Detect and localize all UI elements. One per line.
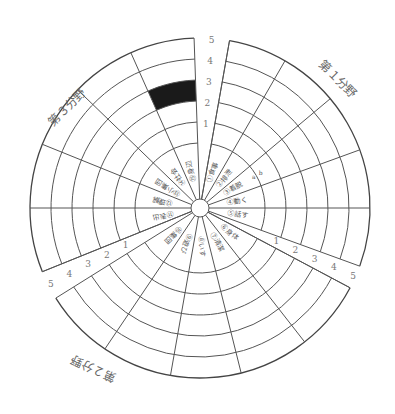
sector-spoke-6: [206, 215, 305, 342]
scale-label-2-5: 5: [48, 279, 54, 289]
scale-label-1-2: 2: [293, 245, 299, 255]
scale-label-0-5: 5: [209, 35, 215, 45]
sub-mark-b: b: [259, 169, 263, 176]
field-title-2: 第２分野: [69, 352, 118, 385]
item-label-8: ⑧いす: [197, 235, 206, 256]
scale-label-1-1: 1: [273, 236, 279, 246]
scale-label-2-2: 2: [104, 250, 110, 260]
sub-mark-a: a: [252, 173, 256, 180]
item-label-6: ⑥身体: [219, 222, 241, 242]
sector-spoke-1: [205, 61, 286, 200]
scale-label-2-4: 4: [67, 269, 73, 279]
item-label-15: ⑮身辺: [184, 160, 198, 182]
highlighted-cell: [148, 80, 196, 110]
field-2-ring-4: [74, 278, 332, 357]
scale-label-2-3: 3: [85, 259, 91, 269]
center-hub: [191, 199, 209, 217]
scale-label-1-5: 5: [350, 271, 356, 281]
field-2-ring-3: [91, 268, 313, 336]
scale-label-0-1: 1: [203, 119, 209, 129]
item-label-7: ⑦清潔: [209, 230, 226, 253]
sector-spoke-3: [208, 150, 359, 205]
sector-spoke-14: [131, 53, 196, 200]
field-title-1: 第１分野: [316, 57, 360, 101]
chart-svg: 123451234512345第１分野第２分野第３分野①食事②排泄③着脱④動く⑤…: [0, 0, 395, 414]
scale-label-0-4: 4: [207, 56, 213, 66]
radial-assessment-chart: 123451234512345第１分野第２分野第３分野①食事②排泄③着脱④動く⑤…: [0, 0, 395, 414]
sector-spoke-12: [42, 144, 191, 204]
item-label-10: ⑩集団: [162, 224, 183, 245]
sector-spoke-2: [207, 99, 330, 202]
item-label-12: ⑫理解: [151, 195, 173, 208]
scale-label-0-2: 2: [204, 98, 210, 108]
scale-label-1-3: 3: [312, 254, 318, 264]
item-label-11: ⑪表出: [152, 209, 174, 222]
field-2-boundary-1: [56, 213, 193, 298]
scale-label-2-1: 1: [123, 240, 129, 250]
scale-label-1-4: 4: [331, 262, 337, 272]
field-title-3: 第３分野: [45, 85, 89, 129]
scale-label-0-3: 3: [206, 77, 212, 87]
item-label-4: ④動く: [226, 194, 248, 207]
sector-spoke-5: [208, 212, 350, 288]
